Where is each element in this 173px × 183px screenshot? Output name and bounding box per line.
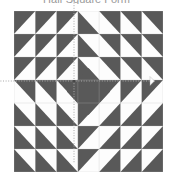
quilt-block-svg: [14, 11, 163, 172]
figure-caption: Half Square Form: [0, 0, 173, 4]
quilt-block-container: [14, 11, 163, 172]
figure-root: Half Square Form: [0, 0, 173, 183]
